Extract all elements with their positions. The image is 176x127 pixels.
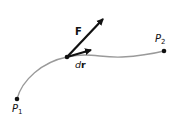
displacement-label: dr: [75, 59, 86, 70]
path-curve: [17, 51, 164, 99]
end-point-label: P2: [155, 33, 166, 46]
start-point-dot: [15, 97, 20, 102]
work-path-diagram: F dr P1 P2: [0, 0, 176, 127]
displacement-label-r: r: [81, 59, 86, 70]
mid-point-dot: [65, 55, 70, 60]
start-point-label: P1: [12, 103, 23, 116]
force-label: F: [75, 26, 82, 37]
end-point-dot: [162, 49, 167, 54]
